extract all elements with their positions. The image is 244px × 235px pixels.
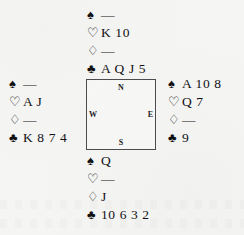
club-icon: ♣ (9, 129, 22, 147)
west-spades-cards: — (22, 75, 37, 93)
north-clubs-cards: A Q J 5 (100, 60, 146, 78)
compass-label-south: S (87, 138, 155, 147)
east-spades-cards: A 10 8 (181, 75, 222, 93)
south-diamonds-cards: J (100, 188, 107, 206)
north-clubs-row: ♣ A Q J 5 (87, 60, 146, 78)
compass-label-north: N (87, 83, 155, 92)
spade-icon: ♠ (87, 6, 100, 24)
east-diamonds-cards: — (181, 111, 196, 129)
north-spades-cards: — (100, 6, 115, 24)
diamond-icon: ♢ (87, 42, 100, 60)
hand-east: ♠ A 10 8 ♡ Q 7 ♢ — ♣ 9 (168, 75, 222, 147)
south-spades-cards: Q (100, 152, 111, 170)
hand-north: ♠ — ♡ K 10 ♢ — ♣ A Q J 5 (87, 6, 146, 78)
east-clubs-row: ♣ 9 (168, 129, 222, 147)
east-diamonds-row: ♢ — (168, 111, 222, 129)
south-hearts-row: ♡ — (87, 170, 150, 188)
club-icon: ♣ (87, 60, 100, 78)
bridge-deal-diagram: ♠ — ♡ K 10 ♢ — ♣ A Q J 5 ♠ — ♡ A J ♢ — (0, 0, 244, 235)
heart-icon: ♡ (9, 93, 22, 111)
west-hearts-cards: A J (22, 93, 42, 111)
south-clubs-row: ♣ 10 6 3 2 (87, 206, 150, 224)
north-diamonds-row: ♢ — (87, 42, 146, 60)
north-spades-row: ♠ — (87, 6, 146, 24)
diamond-icon: ♢ (87, 188, 100, 206)
diamond-icon: ♢ (9, 111, 22, 129)
west-hearts-row: ♡ A J (9, 93, 67, 111)
heart-icon: ♡ (87, 170, 100, 188)
compass-box: N W E S (86, 79, 156, 150)
south-spades-row: ♠ Q (87, 152, 150, 170)
compass-label-west: W (89, 110, 97, 119)
west-clubs-cards: K 8 7 4 (22, 129, 67, 147)
west-diamonds-cards: — (22, 111, 37, 129)
club-icon: ♣ (168, 129, 181, 147)
hand-south: ♠ Q ♡ — ♢ J ♣ 10 6 3 2 (87, 152, 150, 224)
spade-icon: ♠ (87, 152, 100, 170)
west-diamonds-row: ♢ — (9, 111, 67, 129)
spade-icon: ♠ (9, 75, 22, 93)
north-hearts-cards: K 10 (100, 24, 130, 42)
south-hearts-cards: — (100, 170, 115, 188)
east-hearts-row: ♡ Q 7 (168, 93, 222, 111)
heart-icon: ♡ (168, 93, 181, 111)
west-clubs-row: ♣ K 8 7 4 (9, 129, 67, 147)
hand-west: ♠ — ♡ A J ♢ — ♣ K 8 7 4 (9, 75, 67, 147)
east-clubs-cards: 9 (181, 129, 189, 147)
compass-label-east: E (148, 110, 153, 119)
spade-icon: ♠ (168, 75, 181, 93)
diamond-icon: ♢ (168, 111, 181, 129)
club-icon: ♣ (87, 206, 100, 224)
heart-icon: ♡ (87, 24, 100, 42)
south-clubs-cards: 10 6 3 2 (100, 206, 150, 224)
south-diamonds-row: ♢ J (87, 188, 150, 206)
east-spades-row: ♠ A 10 8 (168, 75, 222, 93)
north-diamonds-cards: — (100, 42, 115, 60)
east-hearts-cards: Q 7 (181, 93, 204, 111)
west-spades-row: ♠ — (9, 75, 67, 93)
north-hearts-row: ♡ K 10 (87, 24, 146, 42)
